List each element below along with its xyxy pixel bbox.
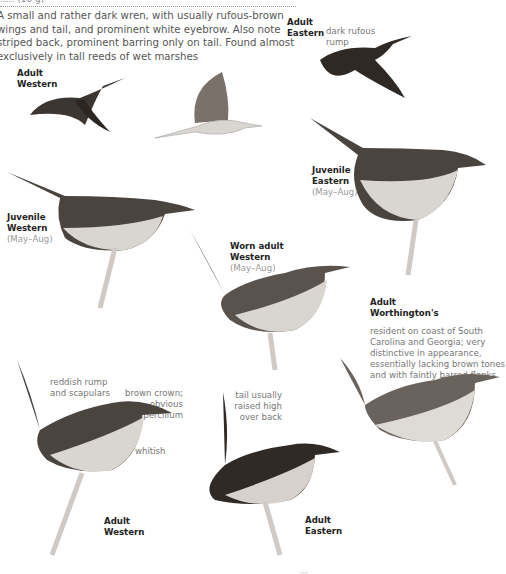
label-adult-worthingtons: AdultWorthington's: [370, 297, 439, 319]
bird-illustration-flight-underside: [150, 68, 265, 140]
label-worn-adult-western: Worn adultWestern(May–Aug): [230, 241, 284, 274]
note-whitish: whitish: [135, 446, 166, 457]
header-divider: [0, 6, 296, 7]
label-adult-eastern-perched: AdultEastern: [305, 515, 342, 537]
label-juvenile-western: JuvenileWestern(May–Aug): [7, 212, 53, 245]
footer-partial: ...: [300, 566, 506, 574]
species-intro: A small and rather dark wren, with usual…: [0, 9, 297, 63]
bird-illustration-adult-western-flight: [25, 70, 130, 135]
bird-illustration-adult-eastern-flight: [315, 30, 415, 100]
bird-illustration-adult-western-perched: [12, 355, 177, 560]
bird-illustration-adult-worthingtons: [335, 355, 505, 490]
page-header-partial: ..... (10 g): [0, 0, 300, 4]
label-juvenile-eastern: JuvenileEastern(May–Aug): [312, 165, 358, 198]
label-adult-western-perched: AdultWestern: [104, 516, 144, 538]
